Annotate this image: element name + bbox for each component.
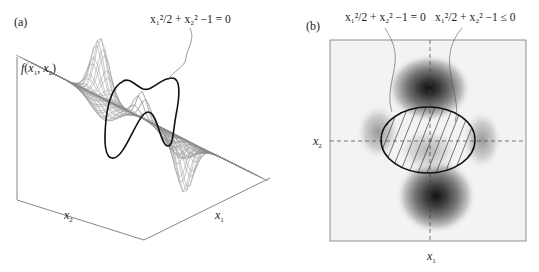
z-axis-label-sub1: 1 bbox=[34, 69, 38, 77]
z-axis-label-sub2: 2 bbox=[49, 69, 53, 77]
figure-canvas bbox=[0, 0, 539, 272]
callout-line-a bbox=[168, 28, 192, 80]
panel-a-x2-label: x2 bbox=[64, 209, 73, 221]
panel-b-contour-plot bbox=[326, 28, 526, 241]
panel-b-region-annotation: x₁²/2 + x₂² −1 ≤ 0 bbox=[435, 12, 516, 24]
panel-b-label: (b) bbox=[306, 20, 320, 32]
panel-a-x1-label: x1 bbox=[215, 209, 224, 221]
panel-b-x1-sub: 1 bbox=[432, 257, 436, 265]
center-contour bbox=[398, 128, 458, 172]
x1-axis-line bbox=[144, 178, 270, 240]
panel-b-x1-label: x1 bbox=[427, 250, 436, 262]
right-side-contour bbox=[462, 110, 502, 170]
panel-a-surface-plot bbox=[16, 28, 270, 240]
panel-a-constraint-annotation: x₁²/2 + x₂² −1 = 0 bbox=[150, 14, 231, 26]
z-axis-label-fn: f bbox=[21, 61, 24, 75]
panel-b-boundary-annotation: x₁²/2 + x₂² −1 = 0 bbox=[345, 12, 426, 24]
panel-a-x2-sub: 2 bbox=[69, 216, 73, 224]
axis-box bbox=[17, 57, 270, 240]
left-side-contour bbox=[356, 104, 400, 160]
panel-b-x2-sub: 2 bbox=[318, 142, 322, 150]
panel-a-x1-sub: 1 bbox=[220, 216, 224, 224]
x2-axis-line bbox=[17, 200, 144, 240]
z-axis-label: f(x1, x2) bbox=[21, 62, 56, 74]
upper-peak-contour bbox=[387, 54, 471, 122]
panel-a-label: (a) bbox=[14, 16, 27, 28]
panel-b-x2-label: x2 bbox=[313, 135, 322, 147]
